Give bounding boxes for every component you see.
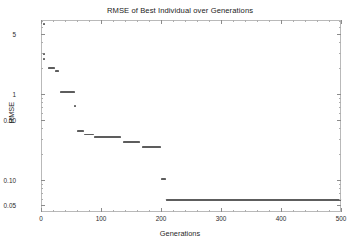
data-plateau-segment: [48, 67, 55, 69]
x-axis-tick: [113, 20, 114, 22]
y-axis-tick-label: 5: [12, 30, 16, 37]
y-axis-tick: [41, 139, 43, 140]
x-axis-tick: [245, 210, 246, 212]
x-axis-tick: [89, 210, 90, 212]
y-axis-tick: [41, 107, 43, 108]
y-axis-tick: [339, 27, 341, 28]
x-axis-tick-label: 300: [216, 215, 227, 222]
x-axis-tick: [197, 210, 198, 212]
y-axis-tick: [41, 68, 43, 69]
y-axis-tick: [339, 68, 341, 69]
x-axis-tick: [185, 20, 186, 22]
x-axis-tick: [149, 210, 150, 212]
data-plateau-segment: [94, 136, 121, 138]
data-point: [74, 105, 76, 107]
x-axis-tick: [221, 208, 222, 212]
x-axis-tick: [209, 210, 210, 212]
y-axis-tick: [339, 199, 341, 200]
x-axis-tick-label: 500: [336, 215, 347, 222]
x-axis-tick: [329, 210, 330, 212]
y-axis-tick: [339, 42, 341, 43]
x-axis-tick: [305, 20, 306, 22]
x-axis-tick: [293, 210, 294, 212]
y-axis-tick: [41, 113, 43, 114]
data-plateau-segment: [142, 146, 161, 148]
data-plateau-segment: [123, 141, 140, 143]
y-axis-tick: [41, 180, 45, 181]
y-axis-tick: [41, 27, 43, 28]
y-axis-tick: [337, 34, 341, 35]
x-axis-tick: [173, 20, 174, 22]
y-axis-tick-label: 0.10: [4, 176, 16, 183]
x-axis-tick: [281, 208, 282, 212]
figure: RMSE of Best Individual over Generations…: [0, 0, 360, 247]
x-axis-tick: [317, 20, 318, 22]
x-axis-tick: [257, 210, 258, 212]
x-axis-tick: [197, 20, 198, 22]
data-plateau-segment: [60, 91, 74, 93]
data-point: [43, 58, 45, 60]
data-plateau-segment: [161, 178, 166, 180]
x-axis-tick: [293, 20, 294, 22]
y-axis-tick: [41, 193, 43, 194]
x-axis-tick-label: 100: [96, 215, 107, 222]
y-axis-tick: [41, 94, 45, 95]
y-axis-tick: [41, 199, 43, 200]
y-axis-tick: [339, 188, 341, 189]
x-axis-tick: [137, 210, 138, 212]
x-axis-tick: [137, 20, 138, 22]
x-axis-tick: [317, 210, 318, 212]
y-axis-tick: [41, 205, 45, 206]
y-axis-tick: [41, 98, 43, 99]
y-axis-tick: [339, 107, 341, 108]
y-axis-tick: [41, 120, 45, 121]
data-plateau-segment: [55, 70, 59, 72]
data-point: [43, 53, 45, 55]
x-axis-tick: [41, 208, 42, 212]
chart-title: RMSE of Best Individual over Generations: [0, 6, 360, 15]
x-axis-tick: [233, 20, 234, 22]
data-plateau-segment: [84, 134, 94, 136]
x-axis-tick: [209, 20, 210, 22]
y-axis-tick: [339, 113, 341, 114]
y-axis-tick: [41, 128, 43, 129]
x-axis-tick-label: 400: [276, 215, 287, 222]
y-axis-tick: [339, 53, 341, 54]
y-axis-tick: [337, 205, 341, 206]
y-axis-title: RMSE: [7, 83, 16, 143]
x-axis-tick: [89, 20, 90, 22]
x-axis-tick: [41, 20, 42, 24]
x-axis-tick-label: 0: [39, 215, 43, 222]
y-axis-tick-label: 0.05: [4, 202, 16, 209]
x-axis-tick: [53, 210, 54, 212]
x-axis-tick: [77, 20, 78, 22]
data-plateau-segment: [166, 199, 341, 201]
x-axis-tick: [101, 208, 102, 212]
y-axis-tick: [339, 128, 341, 129]
x-axis-title: Generations: [0, 229, 360, 238]
x-axis-tick: [173, 210, 174, 212]
x-axis-tick: [77, 210, 78, 212]
x-axis-tick: [149, 20, 150, 22]
y-axis-tick: [41, 154, 43, 155]
plot-area: [41, 20, 341, 212]
x-axis-tick: [341, 20, 342, 24]
x-axis-tick: [53, 20, 54, 22]
x-axis-tick: [305, 210, 306, 212]
y-axis-tick: [41, 34, 45, 35]
y-axis-tick: [339, 98, 341, 99]
x-axis-tick: [185, 210, 186, 212]
y-axis-tick: [337, 94, 341, 95]
y-axis-tick: [41, 184, 43, 185]
y-axis-tick: [41, 53, 43, 54]
x-axis-tick: [269, 20, 270, 22]
y-axis-tick: [41, 102, 43, 103]
x-axis-tick: [233, 210, 234, 212]
y-axis-tick: [337, 180, 341, 181]
data-plateau-segment: [77, 130, 84, 132]
y-axis-tick: [339, 154, 341, 155]
x-axis-tick-label: 200: [156, 215, 167, 222]
y-axis-tick: [339, 139, 341, 140]
x-axis-tick: [329, 20, 330, 22]
x-axis-tick: [221, 20, 222, 24]
